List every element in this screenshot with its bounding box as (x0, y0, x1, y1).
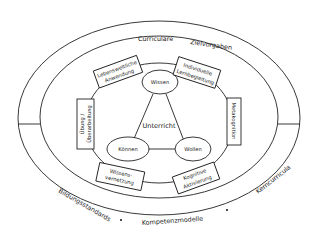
box-wissensvernetzung: Wissens- vernetzung (96, 162, 145, 190)
bullet-right (226, 209, 228, 211)
box-uebung-ueberarbeitung: Übung / Überarbeitung (77, 99, 94, 149)
node-koennen-label: Können (118, 146, 137, 152)
box-individuelle-lernbegleitung: Individuelle Lernbegleitung (173, 57, 221, 89)
label-curriculare: Curriculare (138, 35, 173, 43)
svg-text:Metakognition: Metakognition (230, 103, 237, 140)
box-metakognition: Metakognition (227, 98, 241, 145)
middle-ellipse (40, 36, 278, 198)
label-kerncurricula: Kerncurricula (254, 163, 292, 195)
bullet-left (120, 219, 122, 221)
node-wollen-label: Wollen (184, 146, 201, 152)
label-zielvorgaben: Zielvorgaben (190, 38, 233, 52)
edge-wissen-koennen (133, 94, 153, 141)
center-label-unterricht: Unterricht (142, 122, 176, 130)
edge-wissen-wollen (166, 94, 184, 141)
node-wissen-label: Wissen (151, 79, 169, 85)
svg-text:Übung /: Übung / (79, 114, 86, 135)
svg-text:Überarbeitung: Überarbeitung (86, 105, 93, 143)
label-bildungsstandards: Bildungsstandards (57, 187, 113, 224)
teaching-model-diagram: Curriculare Zielvorgaben Bildungsstandar… (0, 0, 318, 241)
label-kompetenzmodelle: Kompetenzmodelle (142, 215, 204, 227)
box-lebensweltliche-anwendung: Lebensweltliche Anwendung (93, 55, 142, 88)
